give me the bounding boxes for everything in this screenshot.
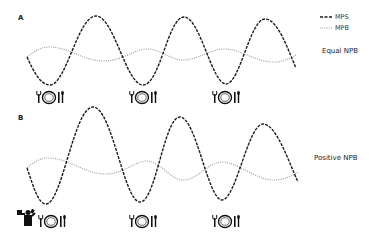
condition-label-b: Positive NPB <box>314 154 357 162</box>
diagram-canvas <box>0 0 369 237</box>
mpb-curve-a <box>27 47 296 62</box>
mps-curve-a <box>27 16 296 85</box>
panel-a <box>27 16 296 104</box>
meal-icon-b1 <box>39 215 66 228</box>
meal-icon-a2 <box>130 91 157 104</box>
weightlifter-icon <box>17 209 35 226</box>
dashed-line-icon <box>320 15 332 19</box>
condition-label-a: Equal NPB <box>322 47 358 55</box>
meal-icon-a3 <box>213 91 240 104</box>
meal-icon-a1 <box>37 91 64 104</box>
meal-icon-b3 <box>213 215 240 228</box>
legend-item-mps: MPS <box>320 11 349 22</box>
legend: MPS MPB <box>320 11 349 33</box>
panel-b <box>17 107 298 228</box>
panel-label-b: B <box>18 114 23 122</box>
dotted-line-icon <box>320 26 332 30</box>
legend-label-mpb: MPB <box>335 24 349 32</box>
legend-item-mpb: MPB <box>320 22 349 33</box>
meal-icon-b2 <box>130 215 157 228</box>
mps-curve-b <box>27 107 298 204</box>
panel-label-a: A <box>18 14 23 22</box>
legend-label-mps: MPS <box>335 13 349 21</box>
mpb-curve-b <box>27 158 298 180</box>
